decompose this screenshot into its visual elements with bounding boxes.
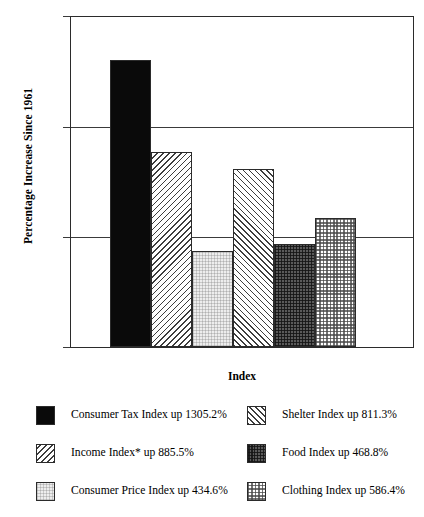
- plot-area: [70, 16, 414, 348]
- y-tick-mark-500: [63, 237, 70, 238]
- bar-series: [71, 17, 413, 347]
- y-tick-mark-0: [63, 347, 70, 348]
- y-tick-mark-1500: [63, 16, 70, 17]
- legend-swatch-consumer-price-index: [36, 482, 55, 501]
- bar-income-index: [151, 152, 192, 347]
- legend-swatch-shelter-index: [247, 406, 266, 425]
- legend-swatch-food-index: [247, 444, 266, 463]
- bar-shelter-index: [233, 169, 274, 348]
- legend-swatch-clothing-index: [247, 482, 266, 501]
- legend-label-food-index: Food Index up 468.8%: [282, 447, 388, 459]
- legend-item-clothing-index: Clothing Index up 586.4%: [247, 476, 424, 506]
- bar-food-index: [274, 244, 315, 347]
- legend-item-income-index: Income Index* up 885.5%: [36, 438, 251, 468]
- legend-item-consumer-price-index: Consumer Price Index up 434.6%: [36, 476, 251, 506]
- bar-consumer-price-index: [192, 251, 233, 347]
- legend-label-consumer-price-index: Consumer Price Index up 434.6%: [71, 485, 228, 497]
- legend-item-shelter-index: Shelter Index up 811.3%: [247, 400, 424, 430]
- bar-chart: Percentage Increase Since 1961 1500 1000…: [0, 0, 424, 365]
- y-tick-mark-1000: [63, 127, 70, 128]
- legend-item-food-index: Food Index up 468.8%: [247, 438, 424, 468]
- legend-label-clothing-index: Clothing Index up 586.4%: [282, 485, 405, 497]
- bar-clothing-index: [315, 218, 356, 347]
- legend-item-consumer-tax-index: Consumer Tax Index up 1305.2%: [36, 400, 251, 430]
- legend-label-income-index: Income Index* up 885.5%: [71, 447, 194, 459]
- x-axis-title: Index: [70, 370, 414, 382]
- legend-swatch-consumer-tax-index: [36, 406, 55, 425]
- chart-legend: Consumer Tax Index up 1305.2% Shelter In…: [0, 398, 424, 517]
- legend-label-shelter-index: Shelter Index up 811.3%: [282, 409, 397, 421]
- bar-consumer-tax-index: [110, 60, 151, 347]
- legend-label-consumer-tax-index: Consumer Tax Index up 1305.2%: [71, 409, 227, 421]
- y-axis-title: Percentage Increase Since 1961: [22, 46, 34, 286]
- legend-swatch-income-index: [36, 444, 55, 463]
